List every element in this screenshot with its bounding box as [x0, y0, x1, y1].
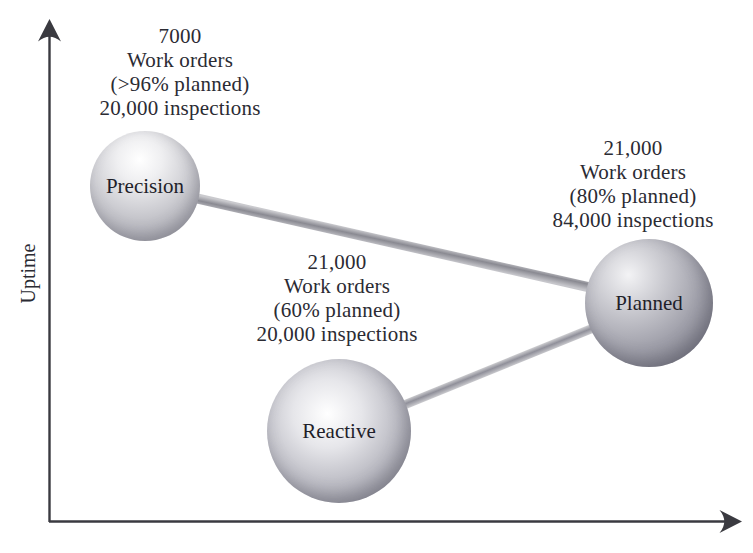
bubble-precision: Precision: [90, 131, 200, 241]
annotation-planned: 21,000 Work orders (80% planned) 84,000 …: [523, 136, 743, 232]
y-axis-label: Uptime: [17, 224, 40, 324]
annotation-reactive: 21,000 Work orders (60% planned) 20,000 …: [227, 250, 447, 346]
annotation-line: 21,000: [523, 136, 743, 160]
annotation-line: Work orders: [523, 160, 743, 184]
y-axis: [38, 19, 61, 522]
annotation-line: 20,000 inspections: [70, 96, 290, 120]
annotation-line: (>96% planned): [70, 72, 290, 96]
annotation-line: Work orders: [227, 274, 447, 298]
bubble-reactive: Reactive: [267, 359, 411, 503]
annotation-line: Work orders: [70, 48, 290, 72]
annotation-line: (80% planned): [523, 184, 743, 208]
annotation-line: 20,000 inspections: [227, 322, 447, 346]
bubble-planned: Planned: [585, 239, 713, 367]
bubble-reactive-label: Reactive: [302, 419, 375, 444]
bubble-precision-label: Precision: [106, 174, 184, 199]
x-axis: [49, 510, 742, 533]
annotation-line: (60% planned): [227, 298, 447, 322]
annotation-line: 21,000: [227, 250, 447, 274]
bubble-planned-label: Planned: [615, 291, 683, 316]
annotation-precision: 7000 Work orders (>96% planned) 20,000 i…: [70, 24, 290, 120]
bubble-chart: Uptime 7000 Work orders (>96% planned) 2…: [0, 0, 753, 553]
annotation-line: 7000: [70, 24, 290, 48]
annotation-line: 84,000 inspections: [523, 208, 743, 232]
